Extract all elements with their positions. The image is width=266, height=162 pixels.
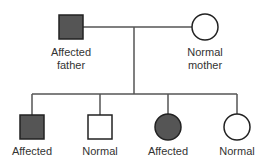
father-label-line2: father bbox=[36, 59, 106, 72]
father-label-line1: Affected bbox=[36, 46, 106, 59]
child-2-label: Normal bbox=[65, 145, 135, 158]
father-affected-square bbox=[59, 15, 83, 39]
child-4-label: Normal bbox=[202, 145, 266, 158]
child-1-affected-square bbox=[20, 115, 44, 139]
child-4-normal-circle bbox=[224, 114, 250, 140]
child-1-label: Affected bbox=[0, 145, 67, 158]
child-3-label: Affected bbox=[133, 145, 203, 158]
father-label: Affected father bbox=[36, 46, 106, 72]
mother-normal-circle bbox=[192, 14, 218, 40]
pedigree-diagram bbox=[0, 0, 266, 162]
mother-label: Normal mother bbox=[170, 46, 240, 72]
mother-label-line1: Normal bbox=[170, 46, 240, 59]
child-3-affected-circle bbox=[155, 114, 181, 140]
child-2-normal-square bbox=[88, 115, 112, 139]
mother-label-line2: mother bbox=[170, 59, 240, 72]
